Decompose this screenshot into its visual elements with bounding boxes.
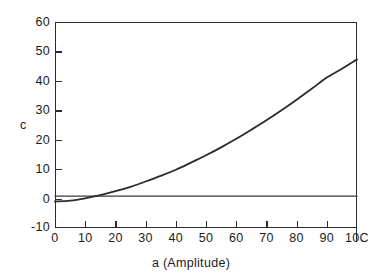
y-axis-title: c <box>20 118 27 132</box>
y-tick-label-30: 30 <box>16 103 50 117</box>
x-axis-title: a (Amplitude) <box>0 256 382 270</box>
series-c-curve-line <box>55 59 357 201</box>
x-tick-label-70: 70 <box>249 231 283 245</box>
chart-figure: 60 50 40 30 20 10 0 -10 0 10 20 30 40 50… <box>0 0 382 280</box>
x-tick-label-50: 50 <box>189 231 223 245</box>
x-tick-label-10: 10 <box>68 231 102 245</box>
x-tick-label-20: 20 <box>98 231 132 245</box>
y-tick-label-20: 20 <box>16 133 50 147</box>
x-tick-label-60: 60 <box>219 231 253 245</box>
y-tick-label-0: 0 <box>16 192 50 206</box>
x-tick-label-0: 0 <box>38 231 72 245</box>
x-tick-label-100: 10C <box>340 231 374 245</box>
x-tick-label-90: 90 <box>310 231 344 245</box>
y-tick-label-50: 50 <box>16 44 50 58</box>
y-tick-label-40: 40 <box>16 74 50 88</box>
x-tick-label-80: 80 <box>280 231 314 245</box>
y-tick-label-60: 60 <box>16 15 50 29</box>
x-tick-label-40: 40 <box>159 231 193 245</box>
y-tick-label-10: 10 <box>16 162 50 176</box>
data-layer <box>55 22 357 228</box>
x-tick-label-30: 30 <box>129 231 163 245</box>
